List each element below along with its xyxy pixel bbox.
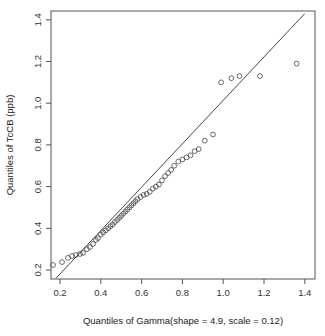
data-point [163, 174, 168, 179]
data-point [229, 76, 234, 81]
plot-frame [51, 11, 315, 279]
x-tick-label: 0.8 [176, 287, 189, 298]
data-point [172, 163, 177, 168]
x-tick-label: 1.0 [217, 287, 230, 298]
y-tick-label: 1.2 [32, 55, 43, 68]
y-tick-label: 0.6 [32, 180, 43, 193]
x-axis: 0.20.40.60.81.01.21.4 [53, 279, 311, 298]
data-point [160, 178, 165, 183]
data-point [60, 260, 65, 265]
data-point [219, 80, 224, 85]
y-tick-label: 0.8 [32, 138, 43, 151]
x-tick-label: 0.4 [94, 287, 107, 298]
qq-plot: 0.20.40.60.81.01.21.4 0.20.40.60.81.01.2… [0, 0, 325, 336]
y-axis: 0.20.40.60.81.01.21.4 [32, 13, 51, 276]
x-tick-label: 1.4 [298, 287, 311, 298]
data-point [237, 74, 242, 79]
x-tick-label: 0.6 [135, 287, 148, 298]
y-axis-label: Quantiles of TcCB (ppb) [4, 95, 15, 196]
data-points [51, 61, 299, 267]
x-tick-label: 0.2 [53, 287, 66, 298]
reference-line [56, 14, 305, 279]
data-point [169, 168, 174, 173]
data-point [166, 171, 171, 176]
data-point [188, 153, 193, 158]
y-tick-label: 1.4 [32, 13, 43, 26]
y-tick-label: 0.2 [32, 263, 43, 276]
data-point [202, 138, 207, 143]
y-tick-label: 1.0 [32, 97, 43, 110]
data-point [81, 251, 86, 256]
y-tick-label: 0.4 [32, 222, 43, 235]
x-tick-label: 1.2 [257, 287, 270, 298]
data-point [211, 132, 216, 137]
data-point [294, 61, 299, 66]
x-axis-label: Quantiles of Gamma(shape = 4.9, scale = … [83, 315, 283, 326]
data-point [258, 74, 263, 79]
data-point [196, 147, 201, 152]
